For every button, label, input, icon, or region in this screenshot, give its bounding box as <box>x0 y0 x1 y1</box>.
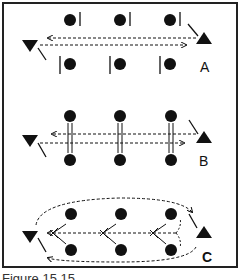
down-triangle-icon <box>22 135 38 147</box>
player-dot <box>64 14 76 26</box>
player-dot <box>114 58 126 70</box>
panel-label-a: A <box>200 59 210 75</box>
panel-label-c: C <box>202 249 212 265</box>
up-triangle-icon <box>196 32 212 44</box>
player-dot <box>164 58 176 70</box>
panel-b: B <box>22 110 212 169</box>
player-dot <box>164 14 176 26</box>
player-dot <box>64 58 76 70</box>
panel-c: C <box>22 198 212 265</box>
up-triangle-icon <box>196 131 212 143</box>
player-dot <box>114 14 126 26</box>
panel-a: A <box>22 12 212 75</box>
down-triangle-icon <box>22 40 38 52</box>
diagram: A B <box>0 0 242 270</box>
figure-caption: Figure 15.15 <box>2 272 242 280</box>
up-triangle-icon <box>196 226 212 238</box>
down-triangle-icon <box>22 231 38 243</box>
panel-label-b: B <box>199 153 208 169</box>
